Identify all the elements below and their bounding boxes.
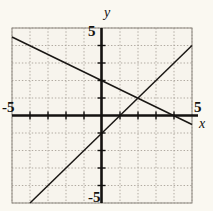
y-axis-variable-label: y [104, 6, 110, 20]
y-axis-max-label: 5 [88, 24, 96, 39]
x-axis-variable-label: x [199, 117, 205, 131]
x-axis-min-label: -5 [2, 100, 15, 115]
y-axis-min-label: -5 [88, 190, 101, 205]
graph-figure: 5 -5 5 -5 y x [0, 0, 213, 211]
coordinate-plane-svg [0, 0, 213, 211]
x-axis-max-label: 5 [194, 100, 202, 115]
